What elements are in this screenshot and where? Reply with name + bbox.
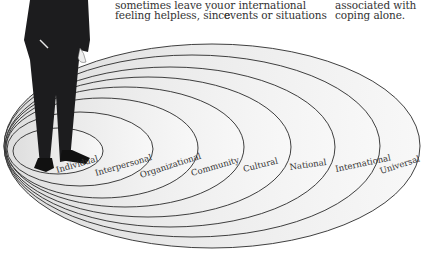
concentric-levels-diagram: Individual Interpersonal Organizational … [0, 0, 425, 260]
